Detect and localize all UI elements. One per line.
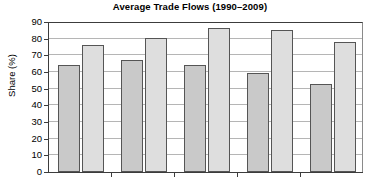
y-tick-label: 50 (31, 83, 42, 94)
y-axis: Share (%) 0102030405060708090 (0, 22, 48, 172)
y-tick-label: 90 (31, 16, 42, 27)
chart-title: Average Trade Flows (1990–2009) (0, 1, 380, 12)
x-tick-mark (300, 172, 301, 177)
y-tick-label: 30 (31, 116, 42, 127)
bar (208, 28, 230, 172)
x-tick-mark (174, 172, 175, 177)
bar (184, 65, 206, 172)
bar (58, 65, 80, 173)
bar (271, 30, 293, 173)
bar (334, 42, 356, 172)
y-tick-label: 80 (31, 33, 42, 44)
bar (247, 73, 269, 172)
y-tick-label: 70 (31, 49, 42, 60)
y-tick-label: 40 (31, 99, 42, 110)
x-tick-mark (237, 172, 238, 177)
y-tick-label: 20 (31, 133, 42, 144)
y-tick-label: 10 (31, 149, 42, 160)
chart-figure: Average Trade Flows (1990–2009) Share (%… (0, 0, 380, 180)
y-tick-label: 0 (37, 166, 42, 177)
bar (310, 84, 332, 172)
y-tick-label: 60 (31, 66, 42, 77)
y-tick-labels: 0102030405060708090 (0, 22, 48, 172)
bar (82, 45, 104, 173)
bars-layer (49, 23, 362, 172)
x-tick-mark (111, 172, 112, 177)
plot-area (48, 22, 363, 172)
bar (145, 38, 167, 172)
bar (121, 60, 143, 172)
x-axis-ticks (48, 172, 363, 180)
